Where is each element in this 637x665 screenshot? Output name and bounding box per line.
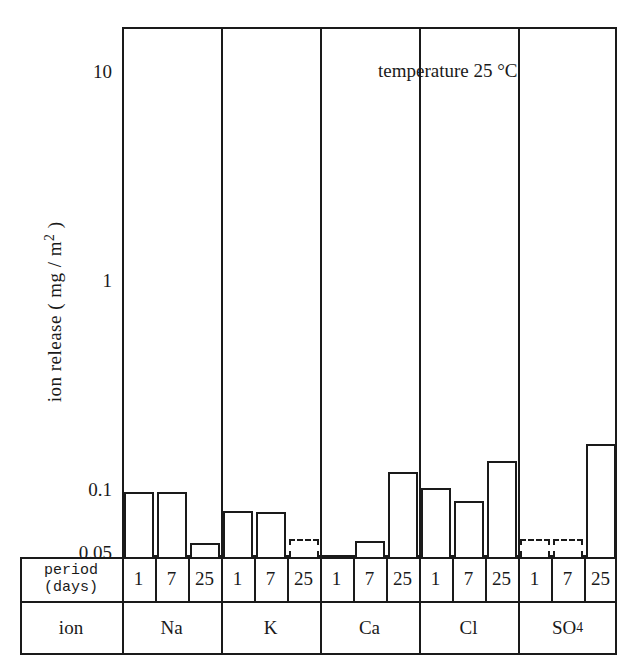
row-header-period: period(days) — [20, 557, 122, 601]
period-cell-Na-1d: 1 — [122, 557, 155, 601]
period-header-line1: period — [44, 562, 98, 579]
group-divider-1 — [221, 27, 223, 557]
period-cell-Cl-25d: 25 — [485, 557, 518, 601]
bar-K-1d — [223, 511, 253, 557]
period-cell-Ca-25d: 25 — [386, 557, 419, 601]
y-tick-label-1: 1 — [20, 270, 112, 292]
period-cell-K-1d: 1 — [221, 557, 254, 601]
period-cell-K-7d: 7 — [254, 557, 287, 601]
y-axis-title-prefix: ion release ( mg / m — [44, 241, 65, 402]
bar-Cl-7d — [454, 501, 484, 557]
bar-SO4-7d — [553, 539, 583, 557]
bar-Na-7d — [157, 492, 187, 557]
ion-group-label-SO: SO4 — [518, 601, 617, 655]
bar-Ca-7d — [355, 541, 385, 557]
period-cell-Ca-7d: 7 — [353, 557, 386, 601]
bar-Na-25d — [190, 543, 220, 557]
bar-SO4-1d — [520, 539, 550, 557]
period-cell-K-25d: 25 — [287, 557, 320, 601]
period-cell-SO-25d: 25 — [584, 557, 617, 601]
bar-Cl-1d — [421, 488, 451, 557]
group-divider-2 — [320, 27, 322, 557]
bar-Cl-25d — [487, 461, 517, 557]
period-header-line2: (days) — [44, 579, 98, 596]
bar-K-7d — [256, 512, 286, 557]
y-axis-title-exponent: 2 — [42, 234, 57, 241]
period-cell-Na-7d: 7 — [155, 557, 188, 601]
bar-Ca-25d — [388, 472, 418, 557]
period-cell-Cl-7d: 7 — [452, 557, 485, 601]
ion-group-label-K: K — [221, 601, 320, 655]
y-axis-title: ion release ( mg / m2 ) — [42, 162, 66, 462]
row-header-ion: ion — [20, 601, 122, 655]
figure-root: ion release ( mg / m2 ) 1010.10.05 tempe… — [0, 0, 637, 665]
ion-group-label-Ca: Ca — [320, 601, 419, 655]
bar-Na-1d — [124, 492, 154, 557]
plot-frame — [122, 27, 617, 557]
y-tick-label-0: 10 — [20, 61, 112, 83]
period-cell-SO-1d: 1 — [518, 557, 551, 601]
y-tick-label-2: 0.1 — [20, 479, 112, 501]
ion-group-label-Cl: Cl — [419, 601, 518, 655]
group-divider-4 — [518, 27, 520, 557]
period-cell-SO-7d: 7 — [551, 557, 584, 601]
bar-K-25d — [289, 539, 319, 557]
temperature-annotation: temperature 25 °C — [378, 60, 518, 82]
period-cell-Ca-1d: 1 — [320, 557, 353, 601]
y-axis-title-suffix: ) — [44, 221, 65, 233]
period-cell-Na-25d: 25 — [188, 557, 221, 601]
group-divider-3 — [419, 27, 421, 557]
ion-header-label: ion — [59, 617, 83, 639]
bar-SO4-25d — [586, 444, 616, 557]
period-cell-Cl-1d: 1 — [419, 557, 452, 601]
ion-group-label-Na: Na — [122, 601, 221, 655]
